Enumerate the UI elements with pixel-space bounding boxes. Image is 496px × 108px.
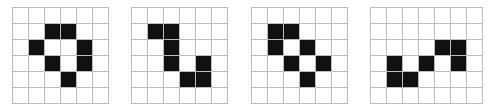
empty-cell — [316, 72, 332, 88]
empty-cell — [252, 72, 268, 88]
empty-cell — [451, 72, 467, 88]
filled-cell — [435, 40, 451, 56]
empty-cell — [45, 72, 61, 88]
empty-cell — [300, 56, 316, 72]
empty-cell — [93, 72, 109, 88]
filled-cell — [164, 24, 180, 40]
empty-cell — [45, 8, 61, 24]
empty-cell — [212, 56, 228, 72]
empty-cell — [316, 24, 332, 40]
empty-cell — [300, 8, 316, 24]
empty-cell — [212, 40, 228, 56]
filled-cell — [300, 72, 316, 88]
empty-cell — [316, 8, 332, 24]
empty-cell — [45, 40, 61, 56]
empty-cell — [435, 72, 451, 88]
empty-cell — [371, 72, 387, 88]
empty-cell — [451, 8, 467, 24]
filled-cell — [284, 56, 300, 72]
empty-cell — [419, 72, 435, 88]
empty-cell — [29, 8, 45, 24]
empty-cell — [93, 8, 109, 24]
empty-cell — [435, 8, 451, 24]
filled-cell — [77, 56, 93, 72]
filled-cell — [29, 40, 45, 56]
empty-cell — [316, 40, 332, 56]
pattern-grid-1 — [12, 7, 109, 104]
filled-cell — [451, 56, 467, 72]
empty-cell — [467, 72, 483, 88]
filled-cell — [300, 40, 316, 56]
empty-cell — [419, 8, 435, 24]
empty-cell — [467, 56, 483, 72]
empty-cell — [164, 72, 180, 88]
filled-cell — [148, 24, 164, 40]
empty-cell — [371, 56, 387, 72]
empty-cell — [403, 88, 419, 104]
empty-cell — [77, 24, 93, 40]
pattern-grid-2 — [131, 7, 228, 104]
empty-cell — [29, 72, 45, 88]
empty-cell — [387, 8, 403, 24]
empty-cell — [196, 40, 212, 56]
empty-cell — [371, 40, 387, 56]
empty-cell — [61, 8, 77, 24]
empty-cell — [419, 40, 435, 56]
empty-cell — [13, 40, 29, 56]
empty-cell — [435, 24, 451, 40]
empty-cell — [371, 24, 387, 40]
empty-cell — [403, 56, 419, 72]
filled-cell — [196, 56, 212, 72]
filled-cell — [268, 40, 284, 56]
filled-cell — [419, 56, 435, 72]
filled-cell — [196, 72, 212, 88]
empty-cell — [196, 24, 212, 40]
empty-cell — [180, 40, 196, 56]
empty-cell — [252, 8, 268, 24]
pattern-grid-4 — [370, 7, 483, 104]
empty-cell — [180, 56, 196, 72]
empty-cell — [467, 24, 483, 40]
empty-cell — [164, 8, 180, 24]
empty-cell — [148, 88, 164, 104]
empty-cell — [13, 8, 29, 24]
empty-cell — [196, 8, 212, 24]
empty-cell — [316, 88, 332, 104]
empty-cell — [252, 40, 268, 56]
empty-cell — [467, 8, 483, 24]
empty-cell — [387, 24, 403, 40]
empty-cell — [252, 56, 268, 72]
empty-cell — [284, 8, 300, 24]
filled-cell — [451, 40, 467, 56]
empty-cell — [252, 88, 268, 104]
empty-cell — [300, 24, 316, 40]
empty-cell — [148, 56, 164, 72]
empty-cell — [77, 88, 93, 104]
filled-cell — [387, 72, 403, 88]
empty-cell — [419, 88, 435, 104]
empty-cell — [13, 88, 29, 104]
empty-cell — [77, 72, 93, 88]
filled-cell — [77, 40, 93, 56]
empty-cell — [132, 8, 148, 24]
empty-cell — [332, 8, 348, 24]
empty-cell — [403, 24, 419, 40]
empty-cell — [148, 8, 164, 24]
empty-cell — [268, 72, 284, 88]
empty-cell — [180, 8, 196, 24]
empty-cell — [387, 88, 403, 104]
empty-cell — [29, 88, 45, 104]
empty-cell — [419, 24, 435, 40]
empty-cell — [180, 24, 196, 40]
empty-cell — [212, 8, 228, 24]
empty-cell — [196, 88, 212, 104]
empty-cell — [93, 24, 109, 40]
empty-cell — [13, 72, 29, 88]
empty-cell — [93, 88, 109, 104]
empty-cell — [268, 88, 284, 104]
empty-cell — [13, 56, 29, 72]
filled-cell — [387, 56, 403, 72]
empty-cell — [371, 8, 387, 24]
filled-cell — [45, 24, 61, 40]
empty-cell — [403, 40, 419, 56]
